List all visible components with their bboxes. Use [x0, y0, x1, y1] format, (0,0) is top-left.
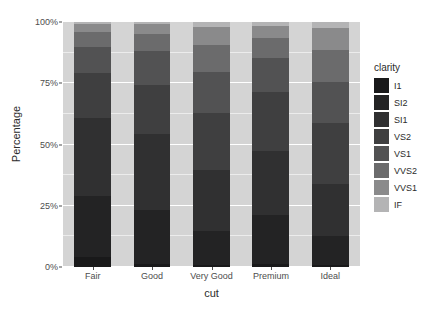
x-axis-tick-mark — [152, 267, 153, 270]
y-axis-tick-mark — [59, 205, 62, 206]
legend-item: VVS2 — [374, 162, 417, 179]
bar-stack — [312, 22, 349, 267]
x-axis-tick-label: Ideal — [321, 271, 341, 281]
bar-segment — [134, 210, 171, 264]
legend-item-label: VS1 — [394, 149, 411, 159]
bar-segment — [252, 26, 289, 38]
bar-segment — [252, 22, 289, 26]
bar-segment — [312, 82, 349, 124]
legend-color-swatch — [374, 146, 389, 161]
x-axis-tick-label: Fair — [85, 271, 101, 281]
legend-item: SI2 — [374, 94, 417, 111]
bar-segment — [134, 22, 171, 24]
legend-item-label: VVS1 — [394, 183, 417, 193]
bar-segment — [134, 34, 171, 51]
x-axis-tick-label: Premium — [253, 271, 289, 281]
legend-item: I1 — [374, 77, 417, 94]
chart-root: Percentage 0%25%50%75%100% cut clarity I… — [0, 0, 442, 309]
bar-segment — [252, 58, 289, 92]
bar-segment — [193, 22, 230, 27]
legend-item-label: IF — [394, 200, 402, 210]
bar-segment — [193, 27, 230, 44]
x-axis-title: cut — [63, 287, 360, 299]
legend-color-swatch — [374, 197, 389, 212]
bar-segment — [74, 24, 111, 31]
plot-panel — [63, 22, 360, 267]
legend-item: IF — [374, 196, 417, 213]
x-axis-tick-label: Very Good — [190, 271, 233, 281]
bar-segment — [74, 22, 111, 24]
bar-segment — [312, 22, 349, 28]
y-axis-tick-label: 100% — [24, 17, 58, 27]
bar-segment — [134, 134, 171, 210]
y-axis-tick-label: 75% — [24, 78, 58, 88]
legend-item: VS2 — [374, 128, 417, 145]
legend-item-label: SI2 — [394, 98, 408, 108]
bar-segment — [134, 24, 171, 34]
bar-segment — [74, 47, 111, 74]
x-axis-tick-mark — [271, 267, 272, 270]
bar-segment — [74, 73, 111, 117]
bar-segment — [312, 28, 349, 50]
bar-segment — [193, 231, 230, 265]
legend-item: SI1 — [374, 111, 417, 128]
legend-items: I1SI2SI1VS2VS1VVS2VVS1IF — [374, 77, 417, 213]
bar-segment — [134, 85, 171, 134]
legend-color-swatch — [374, 112, 389, 127]
y-axis-title: Percentage — [10, 74, 22, 194]
bar-stack — [193, 22, 230, 267]
bar-segment — [252, 92, 289, 151]
bar-segment — [312, 50, 349, 82]
legend-color-swatch — [374, 78, 389, 93]
legend-item-label: SI1 — [394, 115, 408, 125]
x-axis-tick-mark — [330, 267, 331, 270]
bar-segment — [193, 45, 230, 72]
legend-item: VS1 — [374, 145, 417, 162]
legend: clarity I1SI2SI1VS2VS1VVS2VVS1IF — [374, 62, 417, 213]
y-axis-tick-label: 50% — [24, 140, 58, 150]
legend-color-swatch — [374, 129, 389, 144]
x-axis-tick-label: Good — [141, 271, 163, 281]
bar-stack — [134, 22, 171, 267]
legend-item: VVS1 — [374, 179, 417, 196]
bar-segment — [252, 151, 289, 215]
bar-segment — [134, 51, 171, 85]
y-axis-tick-mark — [59, 144, 62, 145]
legend-color-swatch — [374, 163, 389, 178]
bar-segment — [252, 38, 289, 58]
bar-segment — [193, 72, 230, 114]
bar-segment — [193, 113, 230, 169]
bar-segment — [312, 236, 349, 265]
y-axis-tick-mark — [59, 267, 62, 268]
bar-segment — [74, 257, 111, 267]
x-axis-tick-mark — [93, 267, 94, 270]
legend-title: clarity — [374, 62, 417, 73]
legend-item-label: VVS2 — [394, 166, 417, 176]
bar-segment — [252, 215, 289, 264]
bar-segment — [312, 123, 349, 184]
legend-item-label: I1 — [394, 81, 402, 91]
bar-segment — [312, 184, 349, 235]
y-axis-tick-mark — [59, 83, 62, 84]
bar-stack — [74, 22, 111, 267]
bar-segment — [74, 196, 111, 257]
y-axis-tick-label: 25% — [24, 201, 58, 211]
legend-color-swatch — [374, 180, 389, 195]
y-axis-tick-mark — [59, 22, 62, 23]
x-axis-tick-mark — [212, 267, 213, 270]
bar-segment — [74, 118, 111, 196]
y-axis-tick-labels: 0%25%50%75%100% — [22, 0, 58, 309]
y-axis-tick-label: 0% — [24, 262, 58, 272]
bar-segment — [74, 32, 111, 47]
legend-item-label: VS2 — [394, 132, 411, 142]
legend-color-swatch — [374, 95, 389, 110]
bar-segment — [193, 170, 230, 231]
bar-stack — [252, 22, 289, 267]
